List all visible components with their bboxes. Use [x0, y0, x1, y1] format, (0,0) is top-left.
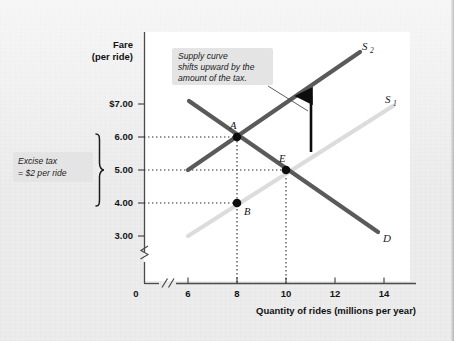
excise-tax-brace — [96, 134, 104, 206]
curve-label-s1-subscript: 1 — [393, 99, 397, 108]
x-tick-label-14: 14 — [379, 288, 390, 299]
curve-label-s2: S — [362, 40, 368, 52]
callout-line-2: shifts upward by the — [178, 62, 255, 72]
figure-page: S 2 S 1 D Supply curve shifts upward by … — [0, 0, 454, 341]
x-tick-label-10: 10 — [281, 288, 292, 299]
y-tick-label-7: $7.00 — [109, 98, 133, 109]
y-axis-title-line2: (per ride) — [92, 51, 133, 62]
point-a-marker — [233, 133, 242, 142]
curve-label-d: D — [382, 232, 391, 244]
callout-line-1: Supply curve — [178, 51, 228, 61]
supply-demand-tax-chart: S 2 S 1 D Supply curve shifts upward by … — [0, 0, 454, 341]
y-tick-label-6: 6.00 — [115, 131, 134, 142]
x-tick-label-12: 12 — [330, 288, 341, 299]
y-tick-label-4: 4.00 — [115, 197, 134, 208]
excise-tax-note-line-1: Excise tax — [18, 156, 58, 166]
y-tick-label-3: 3.00 — [115, 230, 134, 241]
callout-line-3: amount of the tax. — [178, 73, 247, 83]
curve-label-s2-subscript: 2 — [370, 46, 374, 55]
y-tick-label-5: 5.00 — [115, 164, 134, 175]
point-e-marker — [282, 166, 291, 175]
point-a-label: A — [229, 120, 237, 131]
x-tick-label-6: 6 — [185, 288, 190, 299]
x-axis-title: Quantity of rides (millions per year) — [256, 305, 416, 316]
y-axis-title-line1: Fare — [113, 39, 133, 50]
excise-tax-note-line-2: = $2 per ride — [18, 168, 67, 178]
point-e-label: E — [278, 153, 286, 164]
point-b-marker — [233, 199, 242, 208]
x-tick-label-8: 8 — [234, 288, 239, 299]
point-b-label: B — [244, 206, 251, 217]
origin-label: 0 — [133, 288, 138, 299]
curve-label-s1: S — [385, 93, 391, 105]
